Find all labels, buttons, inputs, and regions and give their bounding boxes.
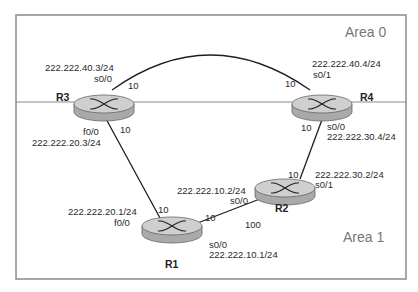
link-r3-r1 — [105, 117, 160, 218]
r3-r4-cost-r4: 10 — [285, 79, 296, 89]
r4-s0-1-ip: 222.222.40.4/24 — [312, 59, 381, 69]
r3-r1-cost-r3: 10 — [120, 125, 131, 135]
router-r1-label: R1 — [165, 259, 178, 270]
r3-s0-0-interface: s0/0 — [94, 74, 112, 84]
r1-f0-0-interface: f0/0 — [114, 218, 130, 228]
r1-r2-cost-r1: 10 — [205, 213, 216, 223]
r3-s0-0-ip: 222.222.40.3/24 — [45, 63, 114, 73]
area-1-label: Area 1 — [343, 230, 384, 245]
link-r3-r4 — [112, 55, 310, 90]
router-r3-icon — [74, 95, 134, 121]
r3-r1-cost-r1: 10 — [158, 205, 169, 215]
r1-r2-cost-r2: 100 — [245, 220, 261, 230]
r3-f0-0-interface: f0/0 — [83, 127, 99, 137]
router-r3-label: R3 — [56, 92, 69, 103]
r2-s0-1-interface: s0/1 — [315, 180, 333, 190]
r4-r2-cost-r4: 10 — [301, 123, 312, 133]
r2-s0-0-interface: s0/0 — [230, 196, 248, 206]
area-0-label: Area 0 — [345, 25, 386, 40]
router-r4-label: R4 — [360, 92, 373, 103]
router-r2-label: R2 — [275, 203, 288, 214]
router-r1-icon — [142, 217, 202, 243]
r4-s0-1-interface: s0/1 — [313, 70, 331, 80]
r4-s0-0-ip: 222.222.30.4/24 — [327, 132, 396, 142]
r3-f0-0-ip: 222.222.20.3/24 — [32, 138, 101, 148]
r3-r4-cost-r3: 10 — [128, 81, 139, 91]
router-r4-icon — [292, 95, 352, 121]
r1-s0-0-ip: 222.222.10.1/24 — [209, 250, 278, 260]
r4-r2-cost-r2: 10 — [288, 170, 299, 180]
r1-f0-0-ip: 222.222.20.1/24 — [68, 207, 137, 217]
